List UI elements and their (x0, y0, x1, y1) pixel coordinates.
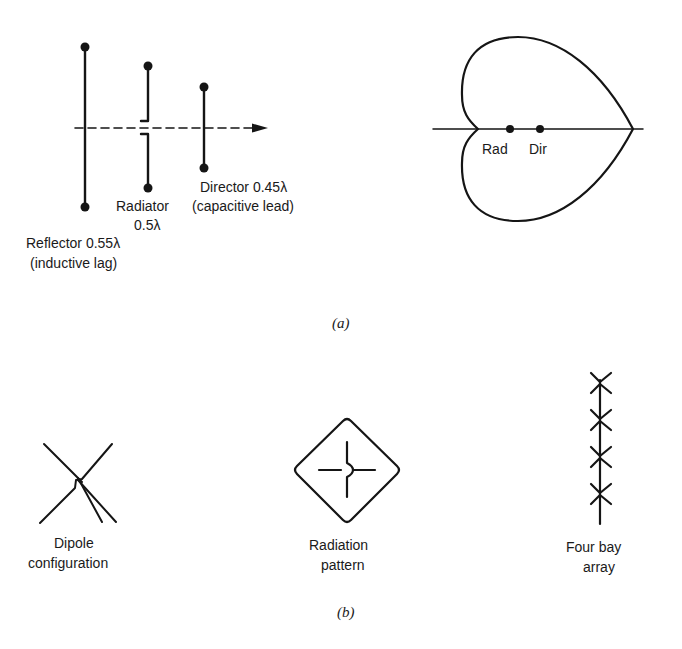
radiation-pattern-label: Radiation (309, 537, 368, 553)
radiator-element (141, 62, 153, 193)
radiation-pattern-diagram: Radiation pattern (295, 419, 399, 573)
four-bay-sublabel: array (583, 559, 615, 575)
reflector-label: Reflector 0.55λ (26, 235, 120, 251)
element-end-dot-icon (81, 203, 90, 212)
dir-label: Dir (529, 141, 547, 157)
diamond-pattern-outline (295, 419, 399, 522)
panel-a-caption: (a) (332, 315, 350, 332)
radiator-sublabel: 0.5λ (134, 217, 160, 233)
four-bay-label: Four bay (566, 539, 621, 555)
arrow-head-icon (252, 124, 268, 133)
rad-label: Rad (482, 141, 508, 157)
element-end-dot-icon (144, 62, 153, 71)
radiation-pattern-sublabel: pattern (321, 557, 365, 573)
radiator-label: Radiator (116, 198, 169, 214)
element-end-dot-icon (81, 43, 90, 52)
director-label: Director 0.45λ (200, 179, 287, 195)
director-point-icon (536, 125, 544, 133)
dipole-sublabel: configuration (28, 555, 108, 571)
reflector-sublabel: (inductive lag) (30, 255, 117, 271)
element-end-dot-icon (200, 83, 209, 92)
reflector-element (81, 43, 90, 212)
cardioid-radiation-pattern: Rad Dir (433, 37, 643, 221)
yagi-antenna-diagram: Director 0.45λ (capacitive lead) Radiato… (26, 43, 294, 272)
dipole-label: Dipole (54, 535, 94, 551)
director-sublabel: (capacitive lead) (192, 198, 294, 214)
four-bay-array-diagram: Four bay array (566, 373, 621, 575)
panel-b-caption: (b) (337, 604, 355, 621)
dipole-configuration-diagram: Dipole configuration (28, 444, 116, 571)
figure-canvas: Director 0.45λ (capacitive lead) Radiato… (0, 0, 682, 649)
radiator-point-icon (506, 125, 514, 133)
element-end-dot-icon (200, 164, 209, 173)
element-end-dot-icon (144, 184, 153, 193)
